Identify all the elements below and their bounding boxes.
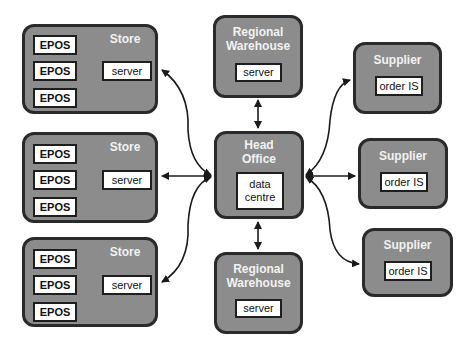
epos-terminal: EPOS bbox=[33, 302, 77, 322]
store-node-2: Store EPOS EPOS EPOS server bbox=[22, 132, 158, 223]
head-office-title-line2: Office bbox=[217, 152, 301, 166]
regional-warehouse-node-1: Regional Warehouse server bbox=[213, 15, 303, 98]
store-title: Store bbox=[95, 32, 155, 46]
warehouse-title-line1: Regional bbox=[216, 25, 300, 39]
store-server: server bbox=[102, 275, 152, 295]
data-centre: data centre bbox=[236, 172, 284, 210]
epos-terminal: EPOS bbox=[33, 249, 77, 269]
store-node-3: Store EPOS EPOS EPOS server bbox=[22, 237, 158, 327]
supplier-node-3: Supplier order IS bbox=[362, 228, 453, 297]
store-title: Store bbox=[95, 140, 155, 154]
head-office-title-line1: Head bbox=[217, 138, 301, 152]
store-server: server bbox=[102, 61, 152, 81]
epos-terminal: EPOS bbox=[33, 144, 77, 164]
store-server: server bbox=[102, 170, 152, 190]
data-centre-line2: centre bbox=[245, 191, 276, 204]
epos-terminal: EPOS bbox=[33, 275, 77, 295]
supplier-title: Supplier bbox=[356, 53, 439, 67]
warehouse-server: server bbox=[235, 63, 282, 82]
supplier-node-1: Supplier order IS bbox=[353, 42, 442, 114]
warehouse-title-line1: Regional bbox=[217, 262, 300, 276]
store-node-1: Store EPOS EPOS EPOS server bbox=[22, 24, 158, 114]
supplier-node-2: Supplier order IS bbox=[358, 138, 448, 209]
order-information-system: order IS bbox=[380, 172, 428, 192]
supplier-title: Supplier bbox=[361, 149, 445, 163]
data-centre-line1: data bbox=[249, 178, 270, 191]
epos-terminal: EPOS bbox=[33, 170, 77, 190]
order-information-system: order IS bbox=[375, 76, 423, 96]
epos-terminal: EPOS bbox=[33, 88, 77, 108]
warehouse-title-line2: Warehouse bbox=[216, 39, 300, 53]
epos-terminal: EPOS bbox=[33, 61, 77, 81]
epos-terminal: EPOS bbox=[33, 197, 77, 217]
order-information-system: order IS bbox=[384, 261, 432, 281]
store-title: Store bbox=[95, 245, 155, 259]
supplier-title: Supplier bbox=[365, 238, 450, 252]
head-office-node: Head Office data centre bbox=[214, 131, 304, 219]
regional-warehouse-node-2: Regional Warehouse server bbox=[214, 252, 303, 334]
warehouse-title-line2: Warehouse bbox=[217, 276, 300, 290]
epos-terminal: EPOS bbox=[33, 35, 77, 55]
warehouse-server: server bbox=[235, 299, 282, 318]
